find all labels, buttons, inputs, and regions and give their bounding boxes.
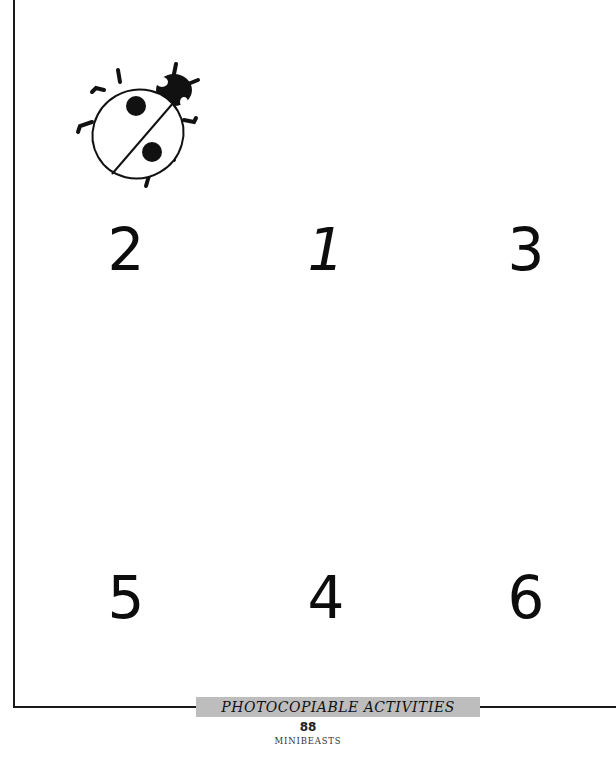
- page-number: 88: [0, 720, 616, 734]
- number-bottom-center: 4: [286, 568, 366, 628]
- number-top-right: 3: [486, 220, 566, 280]
- page-frame-bottom-border-left: [13, 706, 197, 708]
- number-bottom-left: 5: [86, 568, 166, 628]
- banner-label: PHOTOCOPIABLE ACTIVITIES: [221, 697, 454, 717]
- page-frame-left-border: [13, 0, 15, 708]
- number-top-center: 1: [286, 220, 366, 280]
- ladybird-icon: [74, 62, 204, 194]
- photocopiable-banner: PHOTOCOPIABLE ACTIVITIES: [196, 697, 480, 717]
- number-top-left: 2: [86, 220, 166, 280]
- section-name: MINIBEASTS: [0, 735, 616, 747]
- page-frame-bottom-border-right: [480, 706, 616, 708]
- number-bottom-right: 6: [486, 568, 566, 628]
